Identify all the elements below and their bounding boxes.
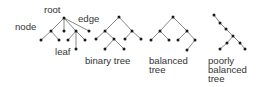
general-tree-edge	[41, 31, 51, 40]
balanced-tree-edge	[173, 17, 187, 31]
general-tree-node-dot	[40, 39, 43, 42]
binary-tree-node-dot	[124, 38, 127, 41]
balanced-tree-node-dot	[150, 39, 153, 42]
binary-tree-edge	[96, 31, 105, 39]
general-tree-node-dot	[75, 48, 78, 51]
binary-tree-node-dot	[131, 30, 134, 33]
general-tree-edge	[68, 31, 76, 40]
balanced-tree-node-dot	[172, 16, 175, 19]
poorly-balanced-tree-node-dot	[219, 48, 222, 51]
poorly-balanced-tree-node-dot	[219, 22, 222, 25]
general-tree-node-dot	[75, 30, 78, 33]
balanced-tree-node-dot	[177, 39, 180, 42]
general-tree-node-dot	[63, 17, 66, 20]
binary-tree-edge	[119, 17, 132, 31]
binary-tree-node-dot	[123, 48, 126, 51]
general-tree-edge	[51, 18, 64, 31]
binary-tree-node-dot	[118, 16, 121, 19]
binary-tree-edge	[114, 39, 124, 49]
general-tree-node-dot	[50, 30, 53, 33]
poorly-balanced-tree-node-dot	[225, 28, 228, 31]
general-tree-node-dot	[67, 39, 70, 42]
binary-tree-node-dot	[104, 48, 107, 51]
caption-poorly-balanced-line3: tree	[208, 73, 225, 84]
general-tree-edge	[64, 18, 76, 31]
balanced-tree-edge	[151, 31, 160, 40]
binary-tree-node-dot	[104, 30, 107, 33]
binary-tree-edge	[125, 31, 132, 39]
poorly-balanced-tree-node-dot	[232, 35, 235, 38]
general-tree-edge	[76, 31, 85, 40]
binary-tree-edge	[105, 39, 114, 49]
binary-tree-node-dot	[113, 38, 116, 41]
general-tree-edge	[51, 31, 59, 40]
binary-tree-node-dot	[95, 38, 98, 41]
balanced-tree-node-dot	[194, 39, 197, 42]
binary-tree-edge	[105, 17, 119, 31]
nodes-layer	[40, 14, 247, 52]
balanced-tree-node-dot	[186, 49, 189, 52]
label-edge: edge	[78, 13, 99, 24]
caption-balanced-tree-line2: tree	[149, 64, 166, 75]
balanced-tree-edge	[160, 17, 173, 31]
balanced-tree-edge	[187, 40, 195, 50]
balanced-tree-edge	[187, 31, 195, 40]
balanced-tree-edge	[160, 31, 169, 40]
tree-diagram: root edge node leaf binary tree balanced…	[0, 0, 257, 87]
balanced-tree-node-dot	[168, 39, 171, 42]
poorly-balanced-tree-node-dot	[239, 42, 242, 45]
binary-tree-node-dot	[140, 38, 143, 41]
poorly-balanced-tree-node-dot	[213, 14, 216, 17]
general-tree-node-dot	[63, 30, 66, 33]
balanced-tree-edge	[178, 31, 187, 40]
binary-tree-edge	[132, 31, 141, 39]
poorly-balanced-tree-node-dot	[226, 42, 229, 45]
binary-tree-edge	[105, 31, 114, 39]
balanced-tree-node-dot	[159, 30, 162, 33]
general-tree-node-dot	[88, 30, 91, 33]
label-root: root	[44, 4, 61, 15]
label-node: node	[15, 21, 36, 32]
caption-binary-tree: binary tree	[85, 55, 130, 66]
label-leaf: leaf	[55, 46, 71, 57]
general-tree-node-dot	[58, 39, 61, 42]
balanced-tree-node-dot	[186, 30, 189, 33]
edges-layer	[41, 15, 245, 50]
poorly-balanced-tree-node-dot	[244, 48, 247, 51]
general-tree-node-dot	[84, 39, 87, 42]
